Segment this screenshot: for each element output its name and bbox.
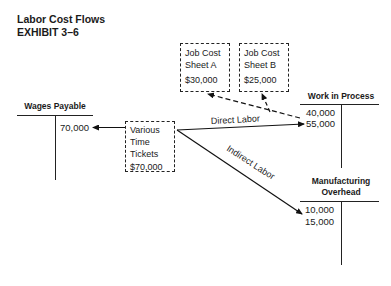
indirect-labor-label: Indirect Labor — [225, 143, 277, 181]
moh-t-account — [300, 202, 379, 266]
flow-lines: Direct Labor Indirect Labor — [0, 0, 391, 286]
direct-labor-label: Direct Labor — [211, 113, 260, 126]
wip-t-account — [300, 105, 379, 169]
wages-payable-t-account — [17, 116, 93, 181]
arrow-indirect-labor — [177, 130, 302, 214]
arrow-direct-labor — [177, 124, 304, 130]
